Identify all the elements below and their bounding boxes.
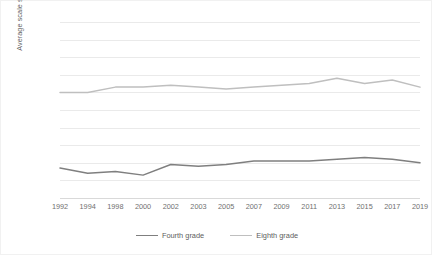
chart-legend: Fourth grade Eighth grade: [1, 227, 432, 243]
legend-line-icon-eighth-grade: [230, 235, 252, 236]
x-axis-labels: 1992199419982000200220032005200720092011…: [60, 202, 420, 216]
legend-item-fourth-grade[interactable]: Fourth grade: [136, 231, 204, 240]
legend-label-eighth-grade: Eighth grade: [256, 231, 298, 240]
legend-item-eighth-grade[interactable]: Eighth grade: [230, 231, 298, 240]
legend-line-icon-fourth-grade: [136, 235, 158, 236]
chart-container: Average scale scores 3002902802702602502…: [0, 0, 432, 255]
legend-label-fourth-grade: Fourth grade: [162, 231, 204, 240]
line-fourth-grade: [60, 158, 420, 176]
y-axis-title: Average scale scores: [13, 0, 27, 73]
x-tick-label-2019: 2019: [400, 202, 432, 211]
plot-area: 300290280270260250240230220210200: [60, 22, 420, 198]
line-eighth-grade: [60, 78, 420, 92]
x-axis-line: [60, 198, 420, 199]
series-lines: [60, 22, 420, 198]
